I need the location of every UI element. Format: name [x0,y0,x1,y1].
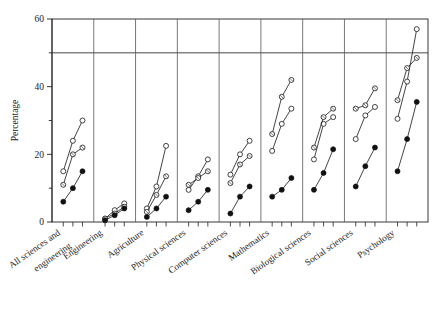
chart-figure: 0204060PercentageAll sciences andenginee… [0,0,445,311]
data-point-filled [154,206,159,211]
data-point-open [238,152,243,157]
data-point-filled [331,147,336,152]
data-point-filled [61,199,66,204]
data-point-filled [289,176,294,181]
y-tick-label: 60 [35,14,45,24]
data-point-filled [405,137,410,142]
data-point-filled [372,145,377,150]
data-point-filled [321,170,326,175]
data-point-open [395,116,400,121]
data-point-open [331,115,336,120]
data-point-open [289,106,294,111]
series-line [230,186,249,213]
data-point-filled [186,208,191,213]
data-point-filled [122,206,127,211]
y-tick-label: 20 [35,150,45,160]
series-1-group [61,27,419,221]
data-point-filled [311,187,316,192]
data-point-open [270,148,275,153]
series-line [230,156,249,183]
series-line [272,109,291,151]
series-line [398,29,417,119]
series-line [314,149,333,190]
data-point-filled [196,199,201,204]
data-point-filled [353,184,358,189]
y-axis-title: Percentage [10,100,20,142]
data-point-filled [164,194,169,199]
data-point-open [154,184,159,189]
series-line [230,141,249,175]
series-line [63,121,82,172]
data-point-filled [80,169,85,174]
data-point-open [70,138,75,143]
y-tick-label: 0 [39,217,44,227]
series-line [356,107,375,139]
strip-chart-svg: 0204060PercentageAll sciences andenginee… [0,0,445,311]
data-point-open [363,113,368,118]
data-point-open [186,187,191,192]
data-point-open [228,172,233,177]
data-point-open [279,121,284,126]
y-tick-label: 40 [35,82,45,92]
data-point-open [414,27,419,32]
data-point-filled [238,194,243,199]
data-point-filled [228,211,233,216]
data-point-filled [112,213,117,218]
data-point-filled [395,169,400,174]
data-point-filled [205,187,210,192]
data-point-filled [144,214,149,219]
data-point-open [61,169,66,174]
data-point-filled [279,187,284,192]
data-point-filled [247,184,252,189]
data-point-filled [270,194,275,199]
data-point-filled [363,164,368,169]
data-point-filled [70,186,75,191]
plot-frame [52,19,428,222]
data-point-open [405,79,410,84]
data-point-open [80,118,85,123]
series-line [147,146,166,209]
data-point-open [311,157,316,162]
data-point-filled [103,218,108,223]
data-point-open [372,104,377,109]
data-point-open [164,143,169,148]
data-point-open [205,157,210,162]
data-point-open [247,138,252,143]
data-point-open [353,137,358,142]
x-category-label: Psychology [355,227,396,260]
x-category-label: Agriculture [105,227,145,259]
data-point-filled [414,99,419,104]
